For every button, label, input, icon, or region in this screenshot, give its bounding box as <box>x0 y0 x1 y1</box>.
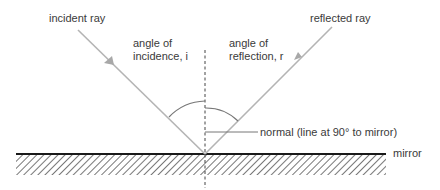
reflected-ray-label: reflected ray <box>310 12 371 25</box>
angle-incidence-label-line2: incidence, i <box>133 50 188 63</box>
mirror-hatching <box>16 155 386 175</box>
normal-label: normal (line at 90° to mirror) <box>260 126 397 139</box>
angle-incidence-label-line1: angle of <box>133 37 172 50</box>
incident-ray-label: incident ray <box>49 12 105 25</box>
mirror-label: mirror <box>393 147 422 160</box>
angle-reflection-label-line2: reflection, r <box>229 50 283 63</box>
reflection-arc <box>205 108 238 121</box>
angle-reflection-label-line1: angle of <box>229 37 268 50</box>
incidence-arc <box>169 101 205 117</box>
diagram-canvas <box>0 0 440 190</box>
